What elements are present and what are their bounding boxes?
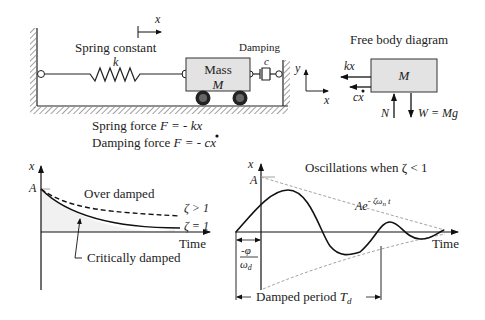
damping-symbol: c [264, 55, 269, 67]
displacement-arrow: x [138, 12, 161, 38]
graph2-a-label: A [249, 173, 258, 187]
envelope-label: Ae- ζωnt [354, 196, 391, 213]
damped-period-label: Damped period Td [256, 289, 352, 306]
upper-envelope [261, 177, 445, 230]
graph1-y-label: x [28, 159, 35, 173]
coordinate-axes: y x [294, 61, 330, 107]
graph1-a-label: A [28, 181, 37, 195]
weight-label: W = Mg [418, 106, 458, 120]
oscillation-curve [236, 190, 444, 255]
damping-label: Damping [239, 41, 280, 53]
fbd-title: Free body diagram [350, 32, 448, 47]
fbd-mass-symbol: M [398, 68, 411, 83]
graph2-y-label: x [247, 157, 254, 171]
phase-numerator: -φ [241, 244, 251, 256]
spring-constant-label: Spring constant [75, 40, 157, 55]
zeta-gt-label: ζ > 1 [184, 201, 209, 215]
damping-response-chart: x A Over damped ζ > 1 ζ = 1 Time Critica… [28, 159, 210, 290]
mass-spring-damper-figure: x Spring constant k Mass M Damping c y x [0, 0, 485, 320]
wheels [196, 91, 248, 106]
lower-envelope [263, 234, 445, 289]
critically-damped-label: Critically damped [87, 250, 181, 265]
kx-label: kx [344, 59, 355, 73]
zeta-eq-label: ζ = 1 [184, 219, 209, 233]
fbd-mass: M [371, 59, 437, 92]
spring-symbol: k [113, 55, 119, 69]
cx-dot [362, 90, 365, 93]
axis-y-label: y [294, 61, 301, 75]
oscillation-chart: Oscillations when ζ < 1 x A Ae- ζωnt Tim… [235, 157, 459, 306]
spring-force-equation: Spring force F = - kx [92, 118, 202, 133]
displacement-label: x [154, 12, 161, 26]
phase-denominator: ωd [240, 258, 253, 272]
left-wall [30, 28, 37, 108]
normal-force-label: N [380, 106, 390, 120]
graph2-time-label: Time [432, 236, 459, 251]
axis-x-label: x [323, 93, 330, 107]
mass-block: Mass M [186, 58, 250, 92]
graph2-title: Oscillations when ζ < 1 [305, 160, 427, 175]
damping-dot [215, 134, 218, 137]
mass-symbol: M [212, 77, 225, 92]
ground [30, 106, 288, 114]
graph1-time-label: Time [179, 236, 206, 251]
mass-label: Mass [204, 62, 231, 77]
over-damped-label: Over damped [84, 186, 155, 201]
right-wall [283, 60, 290, 107]
spring [38, 68, 187, 81]
damping-force-equation: Damping force F = - cx [92, 135, 216, 150]
